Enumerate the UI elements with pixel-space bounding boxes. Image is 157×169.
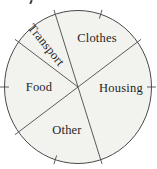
slice-label-other: Other: [52, 124, 81, 137]
slice-label-food: Food: [26, 81, 53, 94]
slice-label-housing: Housing: [99, 82, 143, 95]
pie-chart-figure: Clothes Transport Food Other Housing: [0, 0, 157, 169]
slice-label-clothes: Clothes: [77, 32, 117, 45]
